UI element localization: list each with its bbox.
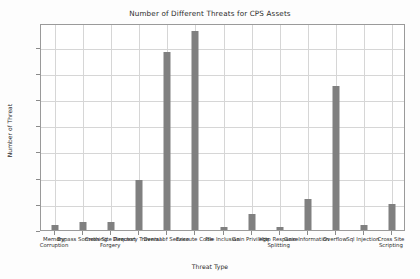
gridline-horizontal bbox=[41, 75, 404, 76]
gridline-horizontal bbox=[41, 127, 404, 128]
bar bbox=[388, 204, 395, 230]
gridline-vertical bbox=[392, 25, 393, 230]
x-tick-mark bbox=[54, 231, 55, 235]
y-tick-mark bbox=[36, 231, 40, 232]
plot-area bbox=[40, 24, 405, 231]
bar bbox=[80, 222, 87, 230]
x-tick-mark bbox=[363, 231, 364, 235]
bar bbox=[192, 31, 199, 230]
gridline-horizontal bbox=[41, 206, 404, 207]
gridline-vertical bbox=[364, 25, 365, 230]
gridline-vertical bbox=[111, 25, 112, 230]
gridline-vertical bbox=[55, 25, 56, 230]
x-tick-mark bbox=[166, 231, 167, 235]
bar bbox=[164, 52, 171, 230]
gridline-vertical bbox=[83, 25, 84, 230]
x-tick-mark bbox=[110, 231, 111, 235]
x-tick-mark bbox=[138, 231, 139, 235]
x-tick-mark bbox=[82, 231, 83, 235]
gridline-horizontal bbox=[41, 101, 404, 102]
gridline-vertical bbox=[280, 25, 281, 230]
x-axis-label: Threat Type bbox=[0, 263, 420, 270]
gridline-vertical bbox=[224, 25, 225, 230]
x-tick-label: Cross Site Scripting bbox=[365, 236, 417, 249]
bar bbox=[52, 225, 59, 230]
bar bbox=[108, 222, 115, 230]
gridline-horizontal bbox=[41, 153, 404, 154]
bar bbox=[360, 225, 367, 230]
bar bbox=[220, 227, 227, 230]
x-tick-mark bbox=[251, 231, 252, 235]
chart-screenshot: Number of Different Threats for CPS Asse… bbox=[0, 0, 420, 279]
bar bbox=[248, 214, 255, 230]
y-axis-label: Number of Threat bbox=[6, 61, 13, 201]
gridline-horizontal bbox=[41, 180, 404, 181]
x-tick-mark bbox=[391, 231, 392, 235]
bar bbox=[332, 86, 339, 230]
gridline-vertical bbox=[252, 25, 253, 230]
x-tick-mark bbox=[194, 231, 195, 235]
chart-title: Number of Different Threats for CPS Asse… bbox=[0, 9, 420, 18]
bar bbox=[136, 180, 143, 230]
bar bbox=[304, 199, 311, 230]
x-tick-mark bbox=[279, 231, 280, 235]
x-tick-mark bbox=[335, 231, 336, 235]
gridline-horizontal bbox=[41, 49, 404, 50]
bar bbox=[276, 227, 283, 230]
x-tick-mark bbox=[223, 231, 224, 235]
x-tick-mark bbox=[307, 231, 308, 235]
